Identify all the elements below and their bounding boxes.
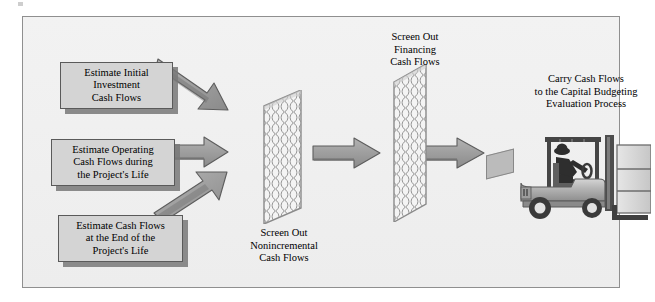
line-2: Financing	[394, 44, 436, 55]
line-2: Investment	[93, 79, 140, 90]
line-3: the Project's Life	[77, 169, 148, 180]
caption-screen-financing: Screen Out Financing Cash Flows	[367, 31, 463, 69]
line-1: Screen Out	[261, 227, 308, 238]
line-3: Project's Life	[93, 245, 149, 256]
caption-screen-nonincremental: Screen Out Nonincremental Cash Flows	[230, 227, 338, 265]
line-3: Cash Flows	[92, 92, 141, 103]
line-1: Screen Out	[392, 31, 439, 42]
diagram-frame: Estimate Initial Investment Cash Flows E…	[22, 16, 620, 288]
screen-mesh	[264, 90, 301, 224]
process-box-initial-investment[interactable]: Estimate Initial Investment Cash Flows	[60, 62, 173, 109]
forklift-icon	[509, 129, 651, 231]
line-1: Estimate Cash Flows	[76, 220, 165, 231]
process-box-operating-label: Estimate Operating Cash Flows during the…	[72, 144, 153, 181]
scan-artifact-speck	[18, 2, 23, 6]
line-2: Cash Flows during	[73, 156, 152, 167]
forklift-load-boxes	[617, 145, 651, 213]
line-2: Nonincremental	[250, 240, 318, 251]
process-box-end-of-life[interactable]: Estimate Cash Flows at the End of the Pr…	[58, 215, 183, 262]
screen-mesh	[394, 64, 426, 222]
line-3: Evaluation Process	[546, 98, 626, 109]
mesh-screen-financing	[392, 64, 430, 222]
caption-carry-cash-flows: Carry Cash Flows to the Capital Budgetin…	[511, 73, 655, 111]
process-box-operating[interactable]: Estimate Operating Cash Flows during the…	[51, 139, 175, 186]
line-3: Cash Flows	[390, 56, 439, 67]
line-3: Cash Flows	[259, 252, 308, 263]
process-box-initial-investment-label: Estimate Initial Investment Cash Flows	[84, 67, 148, 104]
forklift-mast	[605, 135, 614, 211]
line-1: Estimate Initial	[84, 67, 148, 78]
line-2: to the Capital Budgeting	[535, 86, 638, 97]
line-1: Estimate Operating	[72, 144, 153, 155]
line-2: at the End of the	[86, 232, 155, 243]
line-1: Carry Cash Flows	[548, 73, 624, 84]
mesh-screen-nonincremental	[262, 90, 304, 224]
process-box-end-of-life-label: Estimate Cash Flows at the End of the Pr…	[76, 220, 165, 257]
